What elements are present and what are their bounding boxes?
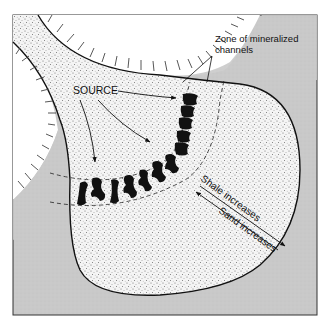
zone-label-line1: Zone of mineralized — [215, 33, 298, 44]
source-label: SOURCE — [73, 84, 118, 96]
zone-label-line2: channels — [215, 44, 253, 55]
geology-diagram: SOURCE Zone of mineralized channels Shal… — [0, 0, 328, 327]
